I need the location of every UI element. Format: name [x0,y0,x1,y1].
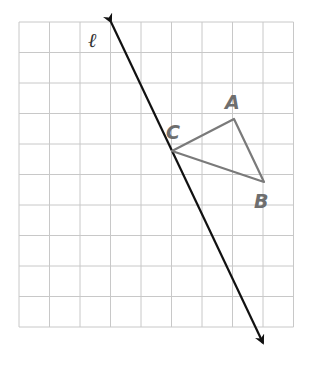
line-label: ℓ [88,28,97,52]
vertex-label-b: B [254,190,268,212]
coordinate-grid [19,22,294,327]
triangle-abc [172,119,264,182]
vertex-label-c: C [166,121,180,143]
line-l [111,22,263,343]
vertex-label-a: A [223,91,240,113]
reflection-diagram: ℓ A B C [0,0,309,366]
